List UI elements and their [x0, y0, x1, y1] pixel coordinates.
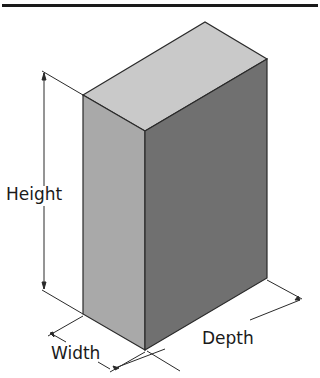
width-label: Width	[51, 345, 100, 362]
height-label: Height	[6, 186, 62, 203]
depth-label: Depth	[202, 330, 254, 347]
left-face	[83, 95, 145, 350]
